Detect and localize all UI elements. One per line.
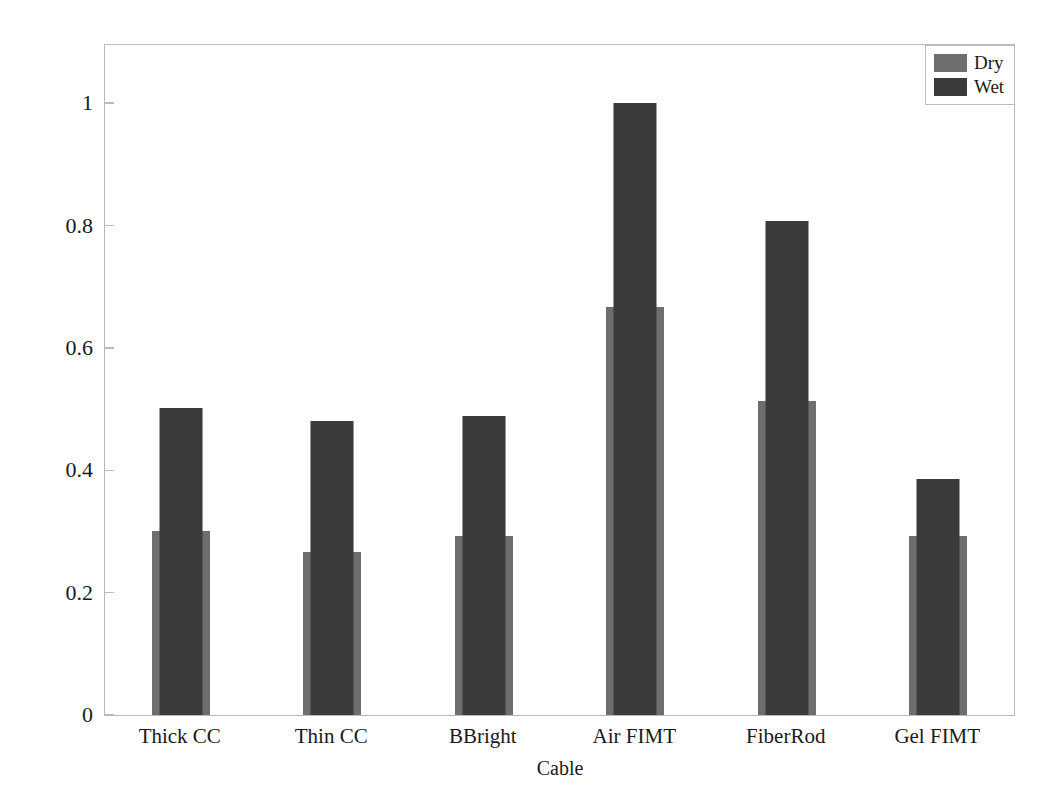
x-axis-label: Cable (537, 757, 584, 780)
x-tick-label: Thin CC (295, 724, 368, 749)
legend-entry-wet[interactable]: Wet (934, 76, 1007, 97)
y-tick-label: 0 (82, 701, 93, 729)
legend-label-dry: Dry (974, 53, 1004, 72)
bar-wet (462, 416, 505, 715)
y-tick-label: 0.2 (66, 579, 94, 607)
legend-swatch-dry (934, 54, 967, 72)
legend-label-wet: Wet (974, 77, 1004, 96)
bar-wet (765, 221, 808, 715)
plot-frame: 00.20.40.60.81 (104, 44, 1015, 716)
legend-swatch-wet (934, 78, 967, 96)
bar-wet (159, 408, 202, 715)
legend: Dry Wet (925, 45, 1015, 105)
y-tick-label: 1 (82, 89, 93, 117)
y-tick-mark (105, 714, 114, 715)
x-tick-label: FiberRod (746, 724, 825, 749)
y-tick-mark (105, 225, 114, 226)
bar-wet (614, 103, 657, 715)
y-tick-mark (105, 347, 114, 348)
legend-entry-dry[interactable]: Dry (934, 52, 1007, 73)
y-tick-mark (105, 592, 114, 593)
y-tick-label: 0.8 (66, 212, 94, 240)
bar-wet (311, 421, 354, 715)
y-tick-label: 0.4 (66, 456, 94, 484)
plot-area: 00.20.40.60.81 (105, 45, 1014, 715)
x-tick-label: Air FIMT (593, 724, 676, 749)
chart-figure: 00.20.40.60.81 Scaled amplitude Cable Dr… (0, 0, 1055, 801)
bar-wet (917, 479, 960, 715)
y-tick-mark (105, 470, 114, 471)
x-tick-label: Thick CC (139, 724, 221, 749)
x-tick-label: BBright (449, 724, 517, 749)
y-tick-label: 0.6 (66, 334, 94, 362)
x-tick-label: Gel FIMT (894, 724, 980, 749)
y-tick-mark (105, 102, 114, 103)
